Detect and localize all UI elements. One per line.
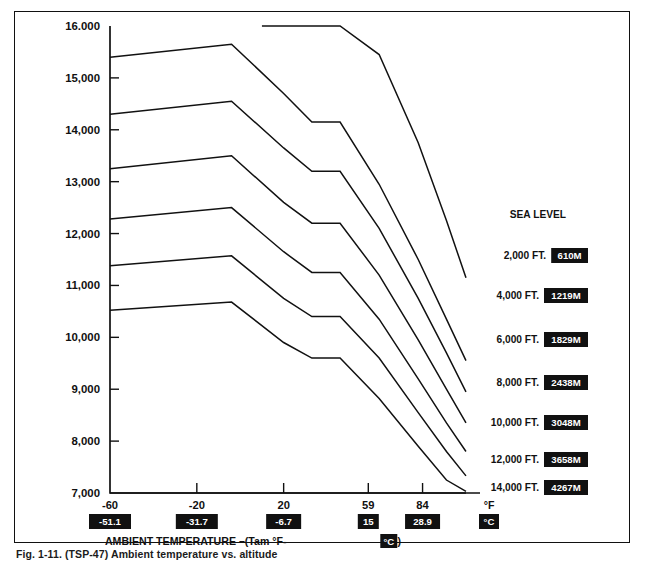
figure-root: 16.00015,00014,00013,00012,00011,00010,0… <box>0 0 645 562</box>
figure-border <box>14 11 630 543</box>
figure-caption: Fig. 1-11. (TSP-47) Ambient temperature … <box>16 548 278 560</box>
